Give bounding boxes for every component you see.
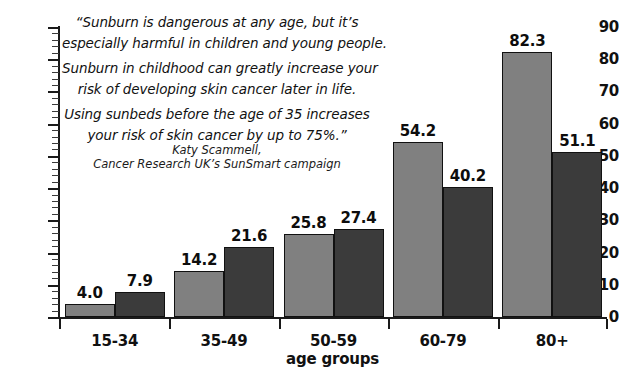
y-major-tick <box>48 188 59 190</box>
y-minor-tick <box>52 46 59 47</box>
y-minor-tick <box>52 66 59 67</box>
y-minor-tick <box>52 130 59 131</box>
y-minor-tick <box>52 104 59 105</box>
y-tick-label: 90 <box>575 18 619 36</box>
quote-line: especially harmful in children and young… <box>62 33 372 54</box>
y-minor-tick <box>52 143 59 144</box>
y-minor-tick <box>52 304 59 305</box>
bar <box>334 229 384 317</box>
category-label: 50-59 <box>279 332 388 350</box>
bar-value-label: 54.2 <box>383 122 453 140</box>
x-axis-title: age groups <box>58 350 607 368</box>
bar <box>65 304 115 317</box>
x-axis-end-tick <box>606 319 608 329</box>
bar-value-label: 14.2 <box>164 251 234 269</box>
x-axis-end-tick <box>59 319 61 329</box>
bar <box>284 234 334 317</box>
y-major-tick <box>48 124 59 126</box>
y-tick-label: 60 <box>575 115 619 133</box>
y-minor-tick <box>52 40 59 41</box>
y-major-tick <box>48 91 59 93</box>
attribution-line: Cancer Research UK’s SunSmart campaign <box>62 157 372 171</box>
x-separator-tick <box>279 319 281 329</box>
attribution-line: Katy Scammell, <box>62 143 372 157</box>
y-tick-label: 70 <box>575 82 619 100</box>
category-label: 80+ <box>498 332 607 350</box>
y-minor-tick <box>52 72 59 73</box>
bar <box>552 152 602 317</box>
y-minor-tick <box>52 182 59 183</box>
bar-value-label: 40.2 <box>433 167 503 185</box>
quote-annotation: “Sunburn is dangerous at any age, but it… <box>62 12 372 146</box>
y-minor-tick <box>52 162 59 163</box>
bar-value-label: 82.3 <box>492 32 562 50</box>
x-separator-tick <box>388 319 390 329</box>
y-minor-tick <box>52 169 59 170</box>
y-minor-tick <box>52 201 59 202</box>
y-minor-tick <box>52 149 59 150</box>
y-major-tick <box>48 253 59 255</box>
quote-line: risk of developing skin cancer later in … <box>62 79 372 100</box>
y-major-tick <box>48 27 59 29</box>
y-minor-tick <box>52 227 59 228</box>
bar-value-label: 7.9 <box>105 272 175 290</box>
bar-value-label: 51.1 <box>542 132 612 150</box>
x-separator-tick <box>169 319 171 329</box>
y-minor-tick <box>52 53 59 54</box>
y-minor-tick <box>52 117 59 118</box>
y-minor-tick <box>52 85 59 86</box>
y-minor-tick <box>52 311 59 312</box>
y-minor-tick <box>52 278 59 279</box>
y-major-tick <box>48 59 59 61</box>
quote-line: “Sunburn is dangerous at any age, but it… <box>62 12 372 33</box>
y-minor-tick <box>52 79 59 80</box>
y-tick-label: 80 <box>575 50 619 68</box>
y-minor-tick <box>52 137 59 138</box>
category-label: 15-34 <box>60 332 169 350</box>
category-label: 60-79 <box>388 332 497 350</box>
bar <box>174 271 224 317</box>
y-major-tick <box>48 156 59 158</box>
y-minor-tick <box>52 265 59 266</box>
y-minor-tick <box>52 98 59 99</box>
x-axis-line <box>58 317 607 319</box>
y-major-tick <box>48 317 59 319</box>
y-minor-tick <box>52 272 59 273</box>
y-minor-tick <box>52 195 59 196</box>
quote-line: Using sunbeds before the age of 35 incre… <box>62 104 372 125</box>
y-minor-tick <box>52 240 59 241</box>
y-axis-line <box>58 26 60 319</box>
y-minor-tick <box>52 111 59 112</box>
y-major-tick <box>48 220 59 222</box>
y-minor-tick <box>52 214 59 215</box>
y-minor-tick <box>52 259 59 260</box>
category-label: 35-49 <box>169 332 278 350</box>
y-minor-tick <box>52 175 59 176</box>
x-separator-tick <box>498 319 500 329</box>
bar-value-label: 27.4 <box>324 209 394 227</box>
bar <box>502 52 552 317</box>
quote-attribution: Katy Scammell,Cancer Research UK’s SunSm… <box>62 143 372 171</box>
y-minor-tick <box>52 246 59 247</box>
bar <box>443 187 493 317</box>
y-minor-tick <box>52 207 59 208</box>
chart-canvas: 0102030405060708090 4.07.914.221.625.827… <box>0 0 619 371</box>
quote-line: Sunburn in childhood can greatly increas… <box>62 58 372 79</box>
y-minor-tick <box>52 233 59 234</box>
y-minor-tick <box>52 33 59 34</box>
